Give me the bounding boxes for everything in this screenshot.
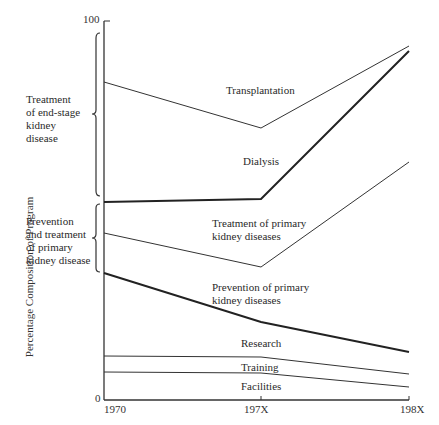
y-axis-label: Percentage Composition of Program xyxy=(23,177,35,377)
label-research: Research xyxy=(241,337,281,350)
group-label-primary: Prevention and treatment of primary kidn… xyxy=(26,215,90,267)
label-transplantation: Transplantation xyxy=(226,84,295,97)
group-line: of primary xyxy=(26,241,90,254)
group-line: kidney disease xyxy=(26,254,90,267)
group-line: of end-stage xyxy=(26,106,80,119)
brace-end-stage xyxy=(92,33,100,196)
label-dialysis: Dialysis xyxy=(243,155,279,168)
y-tick-label-100: 100 xyxy=(83,13,100,25)
brace-primary xyxy=(92,204,100,272)
label-facilities: Facilities xyxy=(241,380,281,393)
group-line: disease xyxy=(26,132,80,145)
x-tick-label-198X: 198X xyxy=(400,403,424,415)
label-treatment-primary-1: Treatment of primary xyxy=(212,217,306,230)
label-prevention-primary-2: kidney diseases xyxy=(212,294,281,307)
label-prevention-primary-1: Prevention of primary xyxy=(212,281,309,294)
group-line: Treatment xyxy=(26,93,80,106)
y-tick-label-0: 0 xyxy=(95,392,101,404)
chart-canvas xyxy=(0,0,439,425)
group-line: kidney xyxy=(26,119,80,132)
label-training: Training xyxy=(241,361,279,374)
treatment-primary-line xyxy=(104,162,409,267)
x-tick-label-197X: 197X xyxy=(244,403,268,415)
x-tick-label-1970: 1970 xyxy=(104,403,126,415)
group-line: and treatment xyxy=(26,228,90,241)
group-line: Prevention xyxy=(26,215,90,228)
group-label-end-stage: Treatment of end-stage kidney disease xyxy=(26,93,80,145)
label-treatment-primary-2: kidney diseases xyxy=(212,230,281,243)
